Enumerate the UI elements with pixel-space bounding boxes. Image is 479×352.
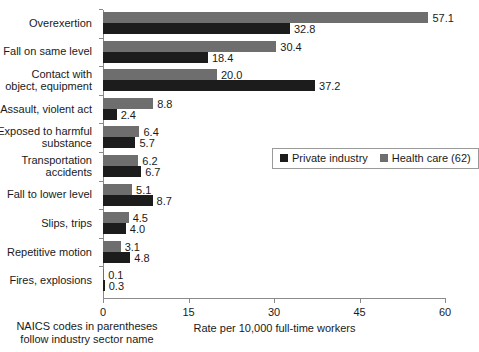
- x-axis-tick-label: 0: [100, 306, 106, 318]
- bar-value-label: 0.3: [109, 281, 124, 292]
- bar-value-label: 5.7: [139, 138, 154, 149]
- category-label: Transportation accidents: [0, 154, 92, 179]
- bar: [103, 80, 315, 91]
- bar-value-label: 4.8: [134, 253, 149, 264]
- bar: [103, 212, 129, 223]
- bar: [103, 155, 138, 166]
- y-axis-tick: [99, 238, 103, 239]
- category-label: Fall to lower level: [0, 188, 92, 201]
- bar-value-label: 8.8: [157, 99, 172, 110]
- category-label: Overexertion: [0, 17, 92, 30]
- category-label: Repetitive motion: [0, 246, 92, 259]
- x-axis-tick: [189, 298, 190, 303]
- bar-value-label: 32.8: [294, 24, 315, 35]
- bar: [103, 69, 217, 80]
- category-label: Contact with object, equipment: [0, 68, 92, 93]
- bar: [103, 98, 153, 109]
- chart-legend: Private industry Health care (62): [272, 148, 479, 169]
- bar-value-label: 18.4: [212, 53, 233, 64]
- bar-value-label: 37.2: [319, 81, 340, 92]
- bar: [103, 23, 290, 34]
- bar: [103, 223, 126, 234]
- y-axis-tick: [99, 38, 103, 39]
- bar: [103, 12, 428, 23]
- legend-label-private-industry: Private industry: [292, 152, 368, 164]
- bar: [103, 126, 139, 137]
- bar: [103, 280, 105, 291]
- bar: [103, 137, 135, 148]
- legend-swatch-icon-private-industry: [280, 154, 288, 162]
- y-axis-tick: [99, 181, 103, 182]
- x-axis-tick-label: 60: [439, 306, 451, 318]
- x-axis-tick: [103, 298, 104, 303]
- category-label: Fires, explosions: [0, 274, 92, 287]
- bar: [103, 195, 153, 206]
- category-label: Exposed to harmful substance: [0, 125, 92, 150]
- bar: [103, 184, 132, 195]
- legend-label-health-care: Health care (62): [392, 152, 471, 164]
- category-label: Assault, violent act: [0, 103, 92, 116]
- y-axis-tick: [99, 209, 103, 210]
- y-axis-tick: [99, 266, 103, 267]
- x-axis-tick-label: 15: [182, 306, 194, 318]
- bar-value-label: 30.4: [280, 42, 301, 53]
- x-axis-tick: [360, 298, 361, 303]
- y-axis-tick: [99, 9, 103, 10]
- bar: [103, 269, 104, 280]
- x-axis-tick: [274, 298, 275, 303]
- category-label: Slips, trips: [0, 217, 92, 230]
- x-axis-tick: [445, 298, 446, 303]
- category-label: Fall on same level: [0, 45, 92, 58]
- y-axis-tick: [99, 123, 103, 124]
- bar: [103, 52, 208, 63]
- bar: [103, 109, 117, 120]
- bar: [103, 41, 276, 52]
- y-axis-tick: [99, 152, 103, 153]
- bar: [103, 252, 130, 263]
- bar-value-label: 6.7: [145, 167, 160, 178]
- bar-value-label: 57.1: [432, 13, 453, 24]
- legend-item-private-industry: Private industry: [280, 152, 368, 164]
- x-axis-tick-label: 45: [353, 306, 365, 318]
- bar: [103, 166, 141, 177]
- bar-value-label: 8.7: [157, 196, 172, 207]
- legend-swatch-icon-health-care: [380, 154, 388, 162]
- y-axis-tick: [99, 95, 103, 96]
- bar-value-label: 2.4: [121, 110, 136, 121]
- y-axis-tick: [99, 66, 103, 67]
- chart-footnote: NAICS codes in parentheses follow indust…: [2, 320, 172, 346]
- bar: [103, 241, 121, 252]
- legend-item-health-care: Health care (62): [380, 152, 471, 164]
- x-axis-tick-label: 30: [268, 306, 280, 318]
- bar-value-label: 4.0: [130, 224, 145, 235]
